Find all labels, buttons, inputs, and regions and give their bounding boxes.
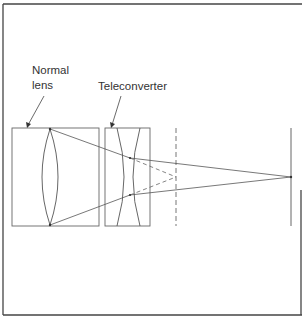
normal-lens-label-line1: Normal (32, 63, 69, 78)
light-rays (50, 129, 291, 225)
diagram-canvas (0, 0, 304, 321)
teleconverter-housing (105, 128, 150, 226)
normal-lens-label: Normal lens (32, 63, 69, 93)
original-ray-paths (130, 158, 176, 195)
normal-lens-label-line2: lens (32, 78, 69, 93)
concave-lens-icon (117, 128, 140, 226)
teleconverter-diagram: Normal lens Teleconverter (0, 0, 304, 321)
leader-lines (28, 96, 121, 125)
frame-border (3, 4, 302, 315)
leader-arrowheads (26, 122, 115, 128)
teleconverter-label: Teleconverter (98, 79, 167, 94)
convex-lens-icon (42, 129, 58, 225)
